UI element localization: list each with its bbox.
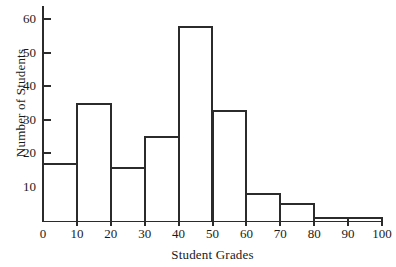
histogram-bar: [178, 26, 214, 221]
histogram-bar: [245, 193, 281, 221]
histogram-bar: [42, 163, 78, 221]
x-axis-title: Student Grades: [43, 247, 382, 263]
histogram-bar: [76, 103, 112, 221]
histogram-bar: [144, 136, 180, 221]
histogram-bar: [212, 110, 248, 221]
histogram-bar: [110, 167, 146, 222]
histogram-bar: [313, 217, 349, 221]
histogram-bar: [347, 217, 383, 221]
histogram-bar: [279, 203, 315, 221]
